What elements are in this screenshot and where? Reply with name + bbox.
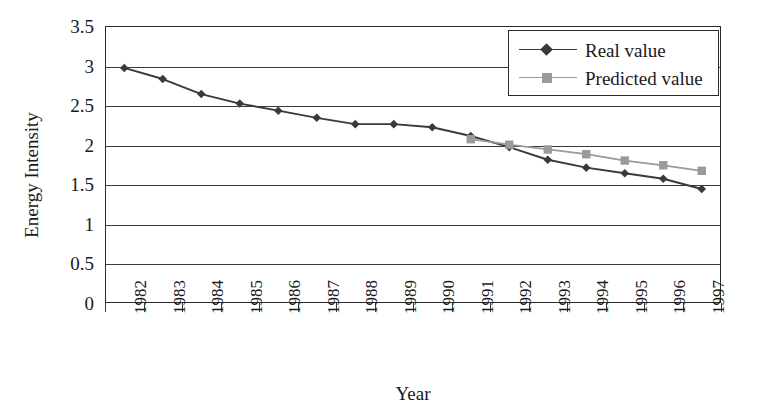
data-point-marker xyxy=(621,156,629,164)
x-tick-label: 1997 xyxy=(709,280,729,314)
y-tick-label: 2 xyxy=(85,135,95,154)
data-point-marker xyxy=(582,163,591,172)
x-tick-label: 1994 xyxy=(593,280,613,314)
x-tick-label: 1996 xyxy=(670,280,690,314)
y-tick-label: 1 xyxy=(85,214,95,233)
data-point-marker xyxy=(235,99,244,108)
legend-label-predicted-value: Predicted value xyxy=(585,69,703,88)
x-axis-labels: 1982198319841985198619871988198919901991… xyxy=(105,312,721,378)
data-point-marker xyxy=(543,155,552,164)
x-axis-title: Year xyxy=(105,383,721,405)
x-tick-label: 1982 xyxy=(131,280,151,314)
data-point-marker xyxy=(197,90,206,99)
x-tick xyxy=(105,303,106,312)
x-tick-label: 1989 xyxy=(401,280,421,314)
x-tick-label: 1985 xyxy=(247,280,267,314)
x-tick-label: 1990 xyxy=(439,280,459,314)
data-point-marker xyxy=(582,150,590,158)
data-point-marker xyxy=(697,185,706,194)
y-tick-label: 3.5 xyxy=(70,17,94,36)
x-tick-label: 1992 xyxy=(516,280,536,314)
y-tick-label: 3 xyxy=(85,56,95,75)
x-tick-label: 1991 xyxy=(478,280,498,314)
legend-label-real-value: Real value xyxy=(585,41,666,60)
data-point-marker xyxy=(659,161,667,169)
data-point-marker xyxy=(274,106,283,115)
y-axis-title: Energy Intensity xyxy=(21,80,43,270)
data-point-marker xyxy=(467,135,475,143)
y-tick-label: 1.5 xyxy=(70,175,94,194)
y-axis: Energy Intensity 00.511.522.533.5 xyxy=(0,0,102,417)
legend-marker-diamond-icon xyxy=(519,43,577,57)
data-point-marker xyxy=(158,75,167,84)
legend-marker-square-icon xyxy=(519,71,577,85)
x-tick-label: 1988 xyxy=(362,280,382,314)
data-point-marker xyxy=(120,64,129,73)
legend-item-predicted-value: Predicted value xyxy=(509,64,718,92)
x-tick-label: 1983 xyxy=(170,280,190,314)
data-point-marker xyxy=(698,167,706,175)
energy-intensity-line-chart: Energy Intensity 00.511.522.533.5 198219… xyxy=(0,0,759,417)
legend: Real value Predicted value xyxy=(508,30,719,96)
data-point-marker xyxy=(312,114,321,123)
data-point-marker xyxy=(351,120,360,129)
y-tick-label: 2.5 xyxy=(70,96,94,115)
data-point-marker xyxy=(505,141,513,149)
x-tick-label: 1995 xyxy=(632,280,652,314)
data-point-marker xyxy=(620,169,629,178)
x-tick-label: 1986 xyxy=(285,280,305,314)
x-tick-label: 1984 xyxy=(208,280,228,314)
legend-item-real-value: Real value xyxy=(509,36,718,64)
x-tick-label: 1987 xyxy=(324,280,344,314)
x-tick-label: 1993 xyxy=(555,280,575,314)
data-point-marker xyxy=(389,120,398,129)
data-point-marker xyxy=(544,145,552,153)
data-point-marker xyxy=(659,174,668,183)
y-tick-label: 0 xyxy=(85,294,95,313)
data-point-marker xyxy=(428,123,437,132)
y-tick-label: 0.5 xyxy=(70,254,94,273)
